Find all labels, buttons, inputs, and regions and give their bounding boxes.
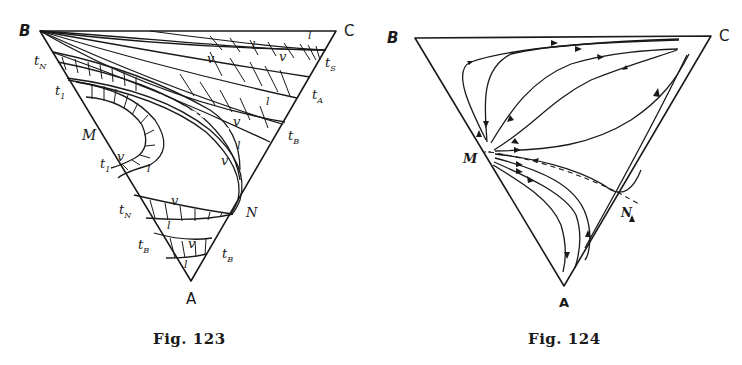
phase-liquid-label: l	[184, 259, 188, 270]
vertex-C-label: C	[719, 29, 729, 44]
figure-caption: Fig. 124	[528, 330, 601, 348]
label-tN-bottom: tN	[119, 203, 131, 220]
point-N-label: N	[246, 206, 257, 219]
vertex-A-label: A	[559, 296, 569, 309]
vertex-C-label: C	[344, 24, 354, 39]
figure-caption: Fig. 123	[153, 330, 226, 348]
phase-vapor-label: v	[233, 115, 240, 128]
phase-liquid-label: l	[147, 163, 151, 174]
ternary-diagram-123	[0, 0, 371, 365]
phase-liquid-label: l	[237, 140, 241, 151]
phase-vapor-label: v	[188, 237, 195, 250]
vertex-A-label: A	[186, 292, 196, 307]
label-tN-top: tN	[34, 54, 46, 71]
label-t1-top: t1	[55, 84, 65, 101]
phase-vapor-label: v	[207, 52, 214, 65]
label-tB-right-top: tB	[288, 129, 299, 146]
label-t1-bottom: t1	[100, 157, 110, 174]
label-tB-right-bottom: tB	[222, 247, 233, 264]
figure-123: B C A M N tN t1 t1 tN tB tS tA tB tB v l…	[0, 0, 371, 365]
label-tA: tA	[312, 88, 323, 105]
point-N-label: N	[621, 207, 632, 219]
phase-vapor-label: v	[279, 50, 286, 63]
phase-vapor-label: v	[171, 194, 178, 207]
point-M-label: M	[82, 128, 96, 142]
phase-vapor-label: v	[221, 154, 228, 167]
vertex-B-label: B	[19, 24, 30, 39]
label-tS: tS	[325, 56, 336, 73]
label-tB-left: tB	[138, 238, 149, 255]
phase-liquid-label: l	[266, 96, 270, 107]
phase-liquid-label: l	[252, 40, 256, 51]
point-M-label: M	[463, 152, 477, 165]
phase-vapor-label: v	[117, 150, 124, 163]
vertex-B-label: B	[387, 31, 398, 46]
ternary-diagram-124	[371, 0, 742, 365]
phase-liquid-label: l	[308, 30, 312, 41]
phase-liquid-label: l	[167, 220, 171, 231]
figure-124: B C A M N Fig. 124	[371, 0, 742, 365]
triangle-outline	[415, 36, 711, 286]
